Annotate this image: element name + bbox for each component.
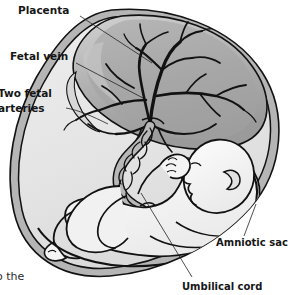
fetus-placenta-diagram: Placenta Fetal vein Two fetal arteries A… xyxy=(0,0,290,295)
label-two-fetal-arteries-line2: arteries xyxy=(0,102,45,114)
label-amniotic-sac-text: Amniotic sac xyxy=(216,237,288,248)
clipped-caption-text: o the xyxy=(0,270,25,283)
label-fetal-vein-text: Fetal vein xyxy=(10,50,68,62)
label-two-fetal-arteries-line1: Two fetal xyxy=(0,87,52,99)
label-umbilical-cord-text: Umbilical cord xyxy=(182,281,262,292)
label-placenta-text: Placenta xyxy=(18,4,69,16)
